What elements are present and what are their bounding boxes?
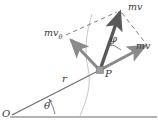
label-angle-phi: φ bbox=[110, 34, 117, 44]
label-momentum-theta-base: mv bbox=[44, 27, 58, 38]
figure-canvas bbox=[0, 0, 158, 127]
label-origin-o: O bbox=[2, 109, 10, 119]
trajectory-curve bbox=[79, 14, 92, 118]
label-radius: r bbox=[62, 74, 67, 84]
label-momentum-theta-subscript: θ bbox=[59, 33, 63, 41]
label-angle-theta: θ bbox=[44, 101, 50, 111]
momentum-decomposition-figure: mv mvθ mv φ θ r P O bbox=[0, 0, 158, 127]
label-momentum-total: mv bbox=[128, 2, 142, 12]
label-momentum-radial: mv bbox=[136, 41, 150, 51]
point-p-marker bbox=[97, 67, 104, 74]
label-point-p: P bbox=[105, 69, 112, 79]
label-momentum-theta: mvθ bbox=[44, 28, 62, 40]
momentum-theta-vector bbox=[71, 40, 100, 70]
